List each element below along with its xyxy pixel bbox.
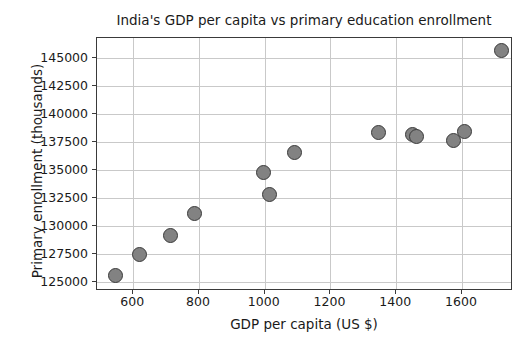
gridline-horizontal	[97, 86, 511, 87]
gridline-vertical	[199, 38, 200, 289]
data-point	[108, 268, 123, 283]
data-point	[287, 145, 302, 160]
x-tick-label: 1400	[360, 294, 430, 309]
y-tick-mark	[92, 85, 96, 86]
y-tick-mark	[92, 253, 96, 254]
y-tick-mark	[92, 141, 96, 142]
y-tick-mark	[92, 57, 96, 58]
data-point	[256, 165, 271, 180]
gridline-horizontal	[97, 226, 511, 227]
plot-area	[96, 37, 512, 290]
gridline-horizontal	[97, 282, 511, 283]
data-point	[457, 124, 472, 139]
x-tick-label: 800	[163, 294, 233, 309]
data-point	[163, 228, 178, 243]
gridline-horizontal	[97, 198, 511, 199]
x-tick-mark	[329, 290, 330, 294]
y-axis-label: Primary enrollment (thousands)	[29, 41, 45, 301]
gridline-vertical	[396, 38, 397, 289]
y-tick-mark	[92, 197, 96, 198]
data-point	[262, 187, 277, 202]
gridline-horizontal	[97, 58, 511, 59]
y-tick-mark	[92, 225, 96, 226]
x-tick-mark	[461, 290, 462, 294]
x-axis-label: GDP per capita (US $)	[96, 316, 512, 332]
gridline-horizontal	[97, 170, 511, 171]
x-tick-label: 1200	[294, 294, 364, 309]
x-tick-label: 1600	[426, 294, 496, 309]
gridline-vertical	[330, 38, 331, 289]
x-tick-mark	[264, 290, 265, 294]
y-tick-mark	[92, 281, 96, 282]
y-tick-mark	[92, 169, 96, 170]
data-point	[187, 206, 202, 221]
x-tick-label: 1000	[229, 294, 299, 309]
gridline-horizontal	[97, 254, 511, 255]
gridline-horizontal	[97, 114, 511, 115]
chart-title: India's GDP per capita vs primary educat…	[96, 12, 512, 28]
x-tick-mark	[198, 290, 199, 294]
gridline-vertical	[265, 38, 266, 289]
gridline-vertical	[462, 38, 463, 289]
chart-figure: India's GDP per capita vs primary educat…	[0, 0, 532, 352]
x-tick-mark	[132, 290, 133, 294]
data-point	[371, 125, 386, 140]
data-point	[132, 247, 147, 262]
x-tick-mark	[395, 290, 396, 294]
data-point	[494, 43, 509, 58]
y-tick-mark	[92, 113, 96, 114]
x-tick-label: 600	[97, 294, 167, 309]
